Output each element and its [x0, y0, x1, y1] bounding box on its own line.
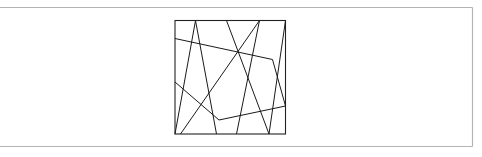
line-segments: [175, 21, 286, 135]
diagram-canvas: [0, 0, 482, 157]
polyline-path: [175, 82, 286, 120]
bounding-square: [175, 21, 286, 135]
line-segment: [196, 21, 217, 135]
outer-frame: [0, 8, 473, 147]
polylines: [175, 39, 286, 121]
square-outline: [175, 21, 286, 135]
